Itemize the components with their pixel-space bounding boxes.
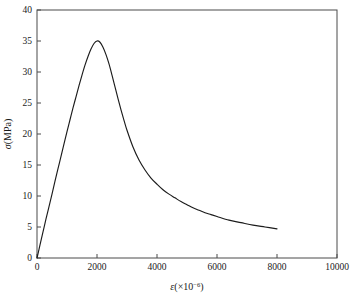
y-tick-label-5: 5 — [27, 222, 32, 232]
y-tick-label-40: 40 — [23, 5, 33, 15]
x-tick-label-10000: 10000 — [325, 262, 349, 272]
x-tick-label-0: 0 — [35, 262, 40, 272]
y-axis-title: σ(MPa) — [2, 119, 14, 150]
y-tick-label-20: 20 — [23, 129, 33, 139]
x-tick-label-8000: 8000 — [268, 262, 287, 272]
y-tick-label-35: 35 — [23, 36, 33, 46]
y-tick-label-30: 30 — [23, 67, 33, 77]
y-tick-label-0: 0 — [27, 253, 32, 263]
x-tick-label-2000: 2000 — [88, 262, 107, 272]
chart-canvas: 0200040006000800010000 0510152025303540 … — [0, 0, 354, 303]
y-tick-label-25: 25 — [23, 98, 33, 108]
y-tick-label-10: 10 — [23, 191, 33, 201]
x-tick-label-4000: 4000 — [148, 262, 167, 272]
stress-strain-chart: 0200040006000800010000 0510152025303540 … — [0, 0, 354, 303]
x-tick-label-6000: 6000 — [208, 262, 227, 272]
y-tick-label-15: 15 — [23, 160, 33, 170]
